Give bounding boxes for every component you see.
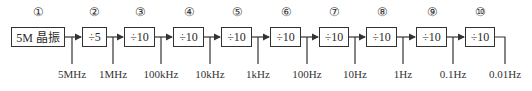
stage-number: ⑦	[324, 5, 344, 20]
divider-box: ÷5	[82, 27, 107, 47]
stage-number: ③	[130, 5, 150, 20]
divider-box: ÷10	[221, 27, 252, 47]
divider-box: ÷10	[465, 27, 495, 47]
stage-number: ②	[84, 5, 104, 20]
crystal-oscillator-box: 5M 晶振	[11, 27, 65, 47]
stage-number: ⑧	[372, 5, 392, 20]
divider-box: ÷10	[124, 27, 155, 47]
stage-number: ⑥	[276, 5, 296, 20]
stage-number: ④	[179, 5, 199, 20]
divider-box: ÷10	[416, 27, 447, 47]
divider-box: ÷10	[270, 27, 301, 47]
divider-box: ÷10	[319, 27, 349, 47]
output-frequency-label: 0.01Hz	[475, 68, 532, 80]
divider-box: ÷10	[366, 27, 397, 47]
stage-number: ⑤	[227, 5, 247, 20]
output-frequency-label: 0.1Hz	[423, 68, 483, 80]
stage-number: ⑩	[470, 5, 490, 20]
stage-number: ①	[28, 5, 48, 20]
divider-box: ÷10	[173, 27, 204, 47]
stage-number: ⑨	[422, 5, 442, 20]
